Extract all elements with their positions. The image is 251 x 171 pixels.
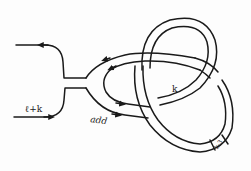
- bottom-loop-inner: [143, 66, 226, 144]
- arrow-outer-lower-icon: [112, 114, 119, 115]
- knot-diagram-svg: ℓ+k add k k-3: [0, 0, 251, 171]
- band-junction: [86, 53, 200, 118]
- knot-diagram: ℓ+k add k k-3: [0, 0, 251, 171]
- top-left-strand: [16, 45, 86, 78]
- label-left-strand: ℓ+k: [25, 104, 43, 114]
- label-add: add: [90, 114, 108, 126]
- label-band-k: k: [172, 84, 178, 94]
- top-loop-inner: [150, 27, 208, 98]
- arrow-inner-lower-icon: [116, 103, 123, 104]
- inner-upper-band: [110, 61, 200, 70]
- knot-band: [135, 18, 233, 152]
- outer-upper-band: [86, 53, 195, 78]
